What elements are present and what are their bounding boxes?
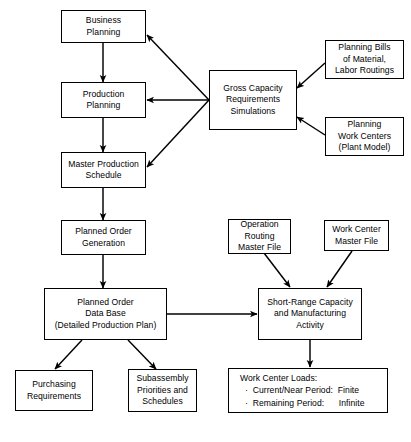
- edge-work-center-master-to-short-range: [327, 251, 352, 287]
- node-label: Subassembly Priorities and Schedules: [134, 373, 190, 407]
- node-label: Business Planning: [84, 15, 123, 38]
- node-label: Gross Capacity Requirements Simulations: [221, 83, 284, 117]
- edge-planning-work-centers-to-gross: [297, 117, 325, 135]
- edge-gross-to-business: [147, 35, 209, 100]
- node-label: Production Planning: [81, 89, 127, 112]
- node-label: Planned Order Generation: [73, 226, 134, 249]
- node-label: Work Center Master File: [330, 224, 383, 247]
- node-work-center-master-file[interactable]: Work Center Master File: [324, 220, 389, 251]
- node-label: Planning Work Centers (Plant Model): [336, 119, 393, 153]
- node-operation-routing-master-file[interactable]: Operation Routing Master File: [228, 219, 291, 254]
- node-work-center-loads[interactable]: Work Center Loads: · Current/Near Period…: [228, 368, 388, 413]
- edge-database-to-subassembly: [128, 340, 156, 369]
- node-purchasing-requirements[interactable]: Purchasing Requirements: [15, 370, 93, 411]
- node-planned-order-data-base[interactable]: Planned Order Data Base (Detailed Produc…: [44, 288, 167, 340]
- node-label: Short-Range Capacity and Manufacturing A…: [265, 297, 355, 331]
- edge-planning-bills-to-gross: [297, 63, 325, 88]
- node-production-planning[interactable]: Production Planning: [61, 82, 146, 118]
- node-business-planning[interactable]: Business Planning: [61, 10, 146, 43]
- edge-gross-to-master: [147, 100, 209, 167]
- node-planning-work-centers[interactable]: Planning Work Centers (Plant Model): [325, 117, 404, 156]
- node-planning-bills-of-material[interactable]: Planning Bills of Material, Labor Routin…: [325, 40, 404, 79]
- node-label: Work Center Loads: · Current/Near Period…: [229, 372, 367, 410]
- edge-operation-routing-to-short-range: [264, 253, 290, 287]
- node-label: Operation Routing Master File: [236, 219, 283, 253]
- node-planned-order-generation[interactable]: Planned Order Generation: [61, 220, 146, 255]
- flowchart-diagram: Business Planning Production Planning Ma…: [0, 0, 411, 442]
- node-subassembly-priorities-and-schedules[interactable]: Subassembly Priorities and Schedules: [128, 369, 197, 412]
- node-gross-capacity-requirements-simulations[interactable]: Gross Capacity Requirements Simulations: [209, 70, 297, 130]
- edge-database-to-purchasing: [55, 340, 82, 369]
- node-master-production-schedule[interactable]: Master Production Schedule: [61, 152, 146, 188]
- node-label: Master Production Schedule: [66, 159, 141, 182]
- node-label: Purchasing Requirements: [25, 379, 83, 402]
- node-label: Planning Bills of Material, Labor Routin…: [333, 42, 396, 76]
- node-label: Planned Order Data Base (Detailed Produc…: [53, 297, 159, 331]
- node-short-range-capacity[interactable]: Short-Range Capacity and Manufacturing A…: [258, 288, 362, 340]
